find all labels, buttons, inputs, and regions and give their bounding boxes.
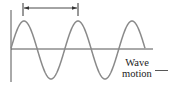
wave-motion-label-line1: Wave	[118, 57, 156, 68]
wave-motion-label: Wave motion	[118, 57, 156, 79]
wavelength-arrow-icon	[23, 3, 78, 16]
wave-motion-label-line2: motion	[118, 68, 156, 79]
